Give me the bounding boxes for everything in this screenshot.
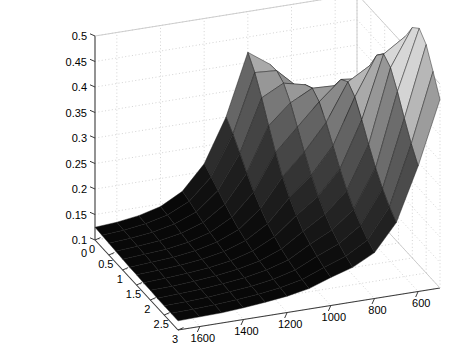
x-tick-label: 1 [117,273,123,285]
x-tick-label: 3 [172,333,178,345]
origin-tick-label: 0 [81,247,87,259]
z-tick-label: 0.5 [72,30,87,42]
wall-left-grid-z [95,0,357,36]
y-tick-label: 800 [368,304,386,316]
surface-plot-figure: 0.10.150.20.250.30.350.40.450.5000.511.5… [0,0,454,350]
y-tick-label: 1400 [234,325,258,337]
wall-left-grid-z [95,20,357,62]
z-tick [90,212,95,214]
y-tick-label: 1200 [278,318,302,330]
z-tick [90,187,95,189]
x-tick-label: 2.5 [154,318,169,330]
y-tick-label: 600 [412,297,430,309]
x-tick-label: 0 [89,243,95,255]
z-tick-label: 0.35 [66,107,87,119]
z-tick [90,110,95,112]
x-tick-label: 0.5 [98,258,113,270]
z-tick-label: 0.1 [72,234,87,246]
x-tick [109,253,115,255]
z-tick [90,85,95,87]
plot-canvas: 0.10.150.20.250.30.350.40.450.5000.511.5… [0,0,454,350]
x-tick [123,268,129,270]
y-tick-label: 1000 [322,311,346,323]
x-tick [137,283,143,285]
y-tick-label: 1600 [191,332,215,344]
z-tick-label: 0.3 [72,132,87,144]
z-tick-label: 0.15 [66,209,87,221]
z-tick [90,136,95,138]
x-tick-label: 1.5 [126,288,141,300]
z-tick-label: 0.45 [66,56,87,68]
x-tick [150,298,156,300]
z-tick [90,34,95,36]
wall-left-grid-z [95,45,357,87]
z-tick-label: 0.2 [72,183,87,195]
x-tick [164,313,170,315]
surface-mesh [95,27,440,320]
z-tick-label: 0.25 [66,158,87,170]
z-tick [90,238,95,240]
x-tick-label: 2 [144,303,150,315]
box-edge-top-left [95,0,357,36]
z-tick [90,161,95,163]
z-tick-label: 0.4 [72,81,87,93]
z-tick [90,59,95,61]
x-tick [95,238,101,240]
